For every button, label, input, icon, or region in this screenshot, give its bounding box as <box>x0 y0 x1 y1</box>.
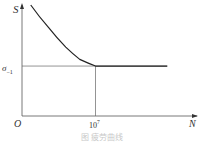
series-line <box>31 5 168 66</box>
y-axis-label: S <box>13 3 19 15</box>
x-tick-label: 107 <box>89 119 100 130</box>
chart: S N O 107 σ−1 图 疲劳曲线 <box>0 0 205 144</box>
y-axis-arrow-icon <box>20 3 24 9</box>
y-tick-label: σ−1 <box>2 63 13 75</box>
x-axis-label: N <box>188 118 197 129</box>
figure-caption: 图 疲劳曲线 <box>81 132 124 142</box>
origin-label: O <box>14 118 21 129</box>
